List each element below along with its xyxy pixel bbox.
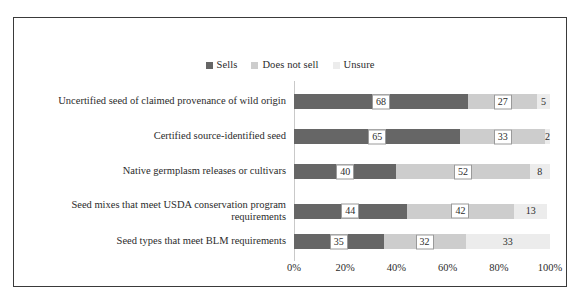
x-axis-tick-label: 40% [387, 263, 406, 274]
legend-swatch-sells [206, 62, 213, 69]
bar-value-label: 5 [537, 94, 550, 109]
legend-swatch-unsure [333, 62, 340, 69]
bar-value-label: 13 [522, 204, 540, 219]
category-label: Certified source-identified seed [14, 130, 294, 142]
bar-value-label: 65 [368, 129, 386, 144]
bar-value-label: 68 [372, 94, 390, 109]
stacked-bar[interactable]: 353233 [294, 234, 550, 249]
category-label: Seed types that meet BLM requirements [14, 235, 294, 247]
legend-label-unsure: Unsure [344, 60, 375, 71]
x-axis-tick-label: 0% [287, 263, 301, 274]
chart-row: Native germplasm releases or cultivars40… [14, 164, 566, 179]
x-axis-tick-labels: 0%20%40%60%80%100% [294, 263, 550, 279]
legend-label-sells: Sells [217, 60, 238, 71]
stacked-bar[interactable]: 444213 [294, 204, 550, 219]
legend-entry-does-not-sell[interactable]: Does not sell [251, 60, 318, 71]
x-axis-tick-label: 60% [438, 263, 457, 274]
chart-row: Seed mixes that meet USDA conservation p… [14, 199, 566, 224]
bar-value-label: 27 [494, 94, 512, 109]
legend-entry-unsure[interactable]: Unsure [333, 60, 375, 71]
chart-row: Certified source-identified seed65332 [14, 129, 566, 144]
chart-row: Seed types that meet BLM requirements353… [14, 234, 566, 249]
x-axis-tick-label: 100% [538, 263, 563, 274]
legend-label-does-not-sell: Does not sell [262, 60, 318, 71]
bar-value-label: 2 [541, 129, 554, 144]
category-label: Native germplasm releases or cultivars [14, 165, 294, 177]
stacked-bar[interactable]: 68275 [294, 94, 550, 109]
bar-value-label: 32 [416, 234, 434, 249]
bar-value-label: 35 [330, 234, 348, 249]
legend-entry-sells[interactable]: Sells [206, 60, 238, 71]
chart-legend: Sells Does not sell Unsure [14, 60, 566, 71]
stacked-bar[interactable]: 65332 [294, 129, 550, 144]
bar-value-label: 33 [499, 234, 517, 249]
bar-value-label: 33 [494, 129, 512, 144]
bar-value-label: 40 [336, 164, 354, 179]
x-axis-tick-label: 20% [336, 263, 355, 274]
x-axis-tick-label: 80% [489, 263, 508, 274]
legend-swatch-does-not-sell [251, 62, 258, 69]
category-label: Uncertified seed of claimed provenance o… [14, 95, 294, 107]
chart-frame: Sells Does not sell Unsure Uncertified s… [13, 17, 567, 287]
stacked-bar[interactable]: 40528 [294, 164, 550, 179]
plot-area: Uncertified seed of claimed provenance o… [14, 81, 566, 261]
category-label: Seed mixes that meet USDA conservation p… [14, 199, 294, 224]
bar-value-label: 8 [533, 164, 546, 179]
bar-value-label: 44 [341, 204, 359, 219]
chart-row: Uncertified seed of claimed provenance o… [14, 94, 566, 109]
bar-value-label: 52 [454, 164, 472, 179]
bar-value-label: 42 [451, 204, 469, 219]
